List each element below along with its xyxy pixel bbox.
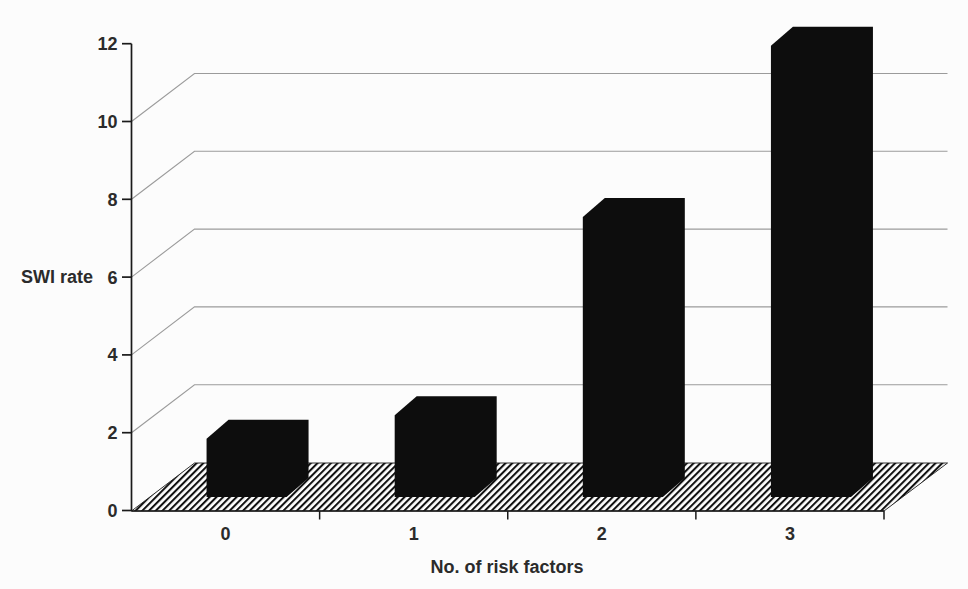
y-tick-label-6: 6: [107, 268, 117, 288]
x-category-label-2: 2: [597, 524, 607, 544]
y-tick-label-8: 8: [107, 190, 117, 210]
y-tick-label-2: 2: [107, 423, 117, 443]
bar-risk-3: [771, 27, 873, 497]
bar-risk-2: [583, 198, 685, 497]
y-tick-label-10: 10: [97, 112, 117, 132]
chart-figure: 0246810120123 SWI rate No. of risk facto…: [0, 0, 968, 589]
plot-area: 0246810120123: [97, 27, 947, 544]
y-tick-label-0: 0: [107, 501, 117, 521]
y-tick-label-4: 4: [107, 345, 117, 365]
bar-chart-3d: 0246810120123 SWI rate No. of risk facto…: [0, 0, 968, 589]
bar-risk-0: [207, 420, 309, 497]
bar-risk-1: [395, 396, 497, 497]
x-axis-title: No. of risk factors: [430, 557, 583, 577]
y-tick-label-12: 12: [97, 34, 117, 54]
y-axis-title: SWI rate: [21, 267, 93, 287]
x-category-label-0: 0: [221, 524, 231, 544]
x-category-label-3: 3: [785, 524, 795, 544]
x-category-label-1: 1: [409, 524, 419, 544]
